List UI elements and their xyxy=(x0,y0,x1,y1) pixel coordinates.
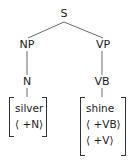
node-n: N xyxy=(23,76,31,88)
edge-s-vp xyxy=(64,22,103,38)
lexical-word: shine xyxy=(86,101,114,115)
node-s: S xyxy=(61,8,68,20)
lexical-entry-shine: shine ⟨ +VB⟩ ⟨ +V⟩ xyxy=(80,97,126,156)
feature: ⟨ +N⟩ xyxy=(15,117,43,131)
edge-s-np xyxy=(28,22,64,38)
left-bracket xyxy=(9,97,14,137)
right-bracket xyxy=(121,97,126,156)
lexical-word: silver xyxy=(15,101,43,115)
feature: ⟨ +VB⟩ xyxy=(86,117,121,131)
node-vp: VP xyxy=(96,39,110,51)
node-np: NP xyxy=(20,39,35,51)
lexical-entry-silver: silver ⟨ +N⟩ xyxy=(9,97,47,137)
node-vb: VB xyxy=(94,76,109,88)
feature: ⟨ +V⟩ xyxy=(86,133,114,147)
left-bracket xyxy=(80,97,85,156)
